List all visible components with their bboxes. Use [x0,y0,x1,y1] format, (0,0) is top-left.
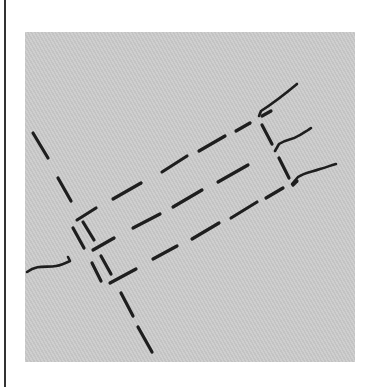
left-road [27,257,70,272]
dash-segment [279,158,289,178]
dash-segment [83,222,94,240]
middle-edge [93,165,248,250]
dash-segment [262,111,271,116]
dash-segment [262,125,272,144]
dash-segment [162,156,187,172]
dashed-main-line [33,133,152,352]
dash-segment [101,256,111,274]
dash-segment [199,136,225,151]
top-right-road [259,84,297,116]
outer-rect-top-edge [77,123,250,220]
middle-right-road [275,128,311,151]
dash-segment [113,183,141,199]
dash-segment [133,214,160,228]
dash-segment [266,188,283,198]
dash-segment [110,269,136,283]
dash-segment [153,246,177,259]
dash-segment [236,123,250,131]
extra-marks [262,111,297,185]
dash-segment [93,238,114,250]
dash-segment [138,327,152,352]
dash-segment [121,293,133,316]
dash-segment [33,133,48,158]
dash-segment [77,208,96,220]
dash-segment [231,202,257,218]
dash-segment [192,223,219,239]
bottom-edge [110,188,283,283]
dash-segment [218,165,248,182]
dash-segment [173,190,202,207]
dash-segment [92,263,101,281]
dash-segment [73,228,84,248]
left-end-verticals [73,222,111,281]
sketch-map [0,0,371,387]
dash-segment [58,178,71,201]
